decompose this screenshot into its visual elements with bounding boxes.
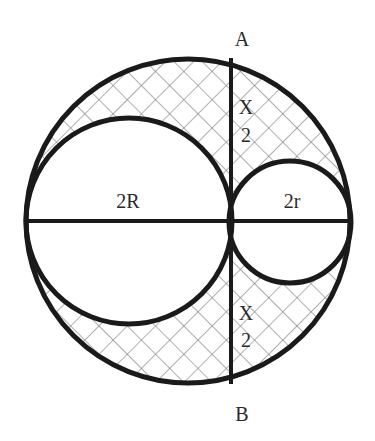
label-upper-2: 2 — [241, 124, 251, 146]
circles-diagram: A B 2R 2r X 2 X 2 — [0, 0, 375, 441]
label-B: B — [235, 403, 248, 425]
label-lower-2: 2 — [241, 329, 251, 351]
label-2r: 2r — [284, 190, 301, 212]
label-upper-X: X — [239, 96, 254, 118]
label-A: A — [235, 28, 250, 50]
label-2R: 2R — [116, 190, 140, 212]
label-lower-X: X — [239, 302, 254, 324]
